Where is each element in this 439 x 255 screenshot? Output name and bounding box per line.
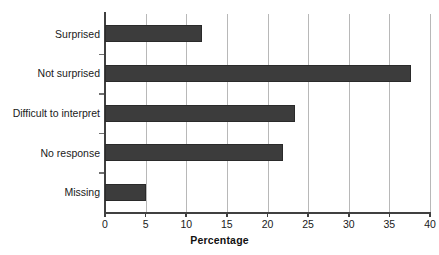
x-tick <box>348 212 350 217</box>
x-axis-title: Percentage <box>0 234 439 246</box>
x-tick <box>389 212 391 217</box>
y-tick <box>99 93 104 94</box>
category-label: No response <box>0 147 100 159</box>
category-label: Difficult to interpret <box>0 107 100 119</box>
category-label: Surprised <box>0 28 100 40</box>
x-tick-label: 10 <box>166 218 206 230</box>
x-tick-label: 30 <box>329 218 369 230</box>
bar <box>105 144 283 161</box>
gridline <box>308 14 309 212</box>
bar <box>105 105 295 122</box>
x-tick-label: 15 <box>207 218 247 230</box>
x-tick <box>267 212 269 217</box>
x-tick-label: 0 <box>85 218 125 230</box>
x-tick <box>185 212 187 217</box>
x-tick <box>145 212 147 217</box>
x-tick-label: 35 <box>369 218 409 230</box>
bar <box>105 184 146 201</box>
x-tick-label: 40 <box>410 218 439 230</box>
x-tick-label: 25 <box>288 218 328 230</box>
category-label: Not surprised <box>0 67 100 79</box>
x-tick <box>429 212 431 217</box>
bar <box>105 25 202 42</box>
y-tick <box>99 54 104 55</box>
gridline <box>389 14 390 212</box>
bar <box>105 65 411 82</box>
x-tick <box>307 212 309 217</box>
gridline <box>349 14 350 212</box>
category-label: Missing <box>0 186 100 198</box>
y-tick <box>99 133 104 134</box>
x-tick <box>226 212 228 217</box>
x-tick-label: 5 <box>126 218 166 230</box>
bar-chart-figure: 0510152025303540 SurprisedNot surprisedD… <box>0 0 439 255</box>
x-tick-label: 20 <box>248 218 288 230</box>
x-tick <box>104 212 106 217</box>
gridline <box>430 14 431 212</box>
y-tick <box>99 172 104 173</box>
